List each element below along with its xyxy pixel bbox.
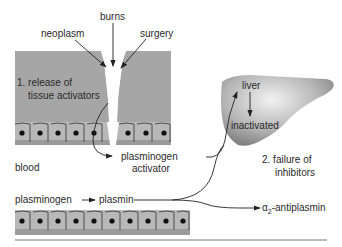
label-surgery: surgery: [140, 28, 173, 40]
label-burns: burns: [100, 11, 125, 23]
label-pa-line2: activator: [132, 163, 170, 175]
label-liver: liver: [242, 80, 260, 92]
label-failure-line1: 2. failure of: [262, 154, 311, 166]
lower-cell-layer: [15, 210, 190, 235]
label-release-line1: 1. release of: [17, 77, 72, 89]
label-neoplasm: neoplasm: [41, 28, 84, 40]
antiplasmin-rest: -antiplasmin: [272, 202, 326, 213]
label-pa-line1: plasminogen: [121, 151, 178, 163]
label-failure-line2: inhibitors: [275, 167, 315, 179]
label-inactivated: inactivated: [231, 120, 279, 132]
label-plasminogen: plasminogen: [15, 194, 72, 206]
label-blood: blood: [15, 162, 39, 174]
liver-shape: [221, 75, 334, 146]
label-plasmin: plasmin: [99, 194, 133, 206]
label-release-line2: tissue activators: [28, 90, 100, 102]
label-antiplasmin: α2-antiplasmin: [262, 202, 326, 218]
